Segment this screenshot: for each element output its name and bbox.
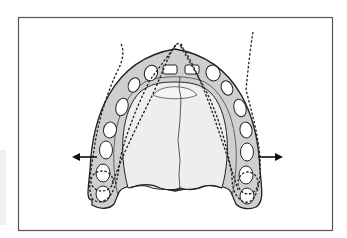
dental-arch-diagram [0, 0, 347, 238]
